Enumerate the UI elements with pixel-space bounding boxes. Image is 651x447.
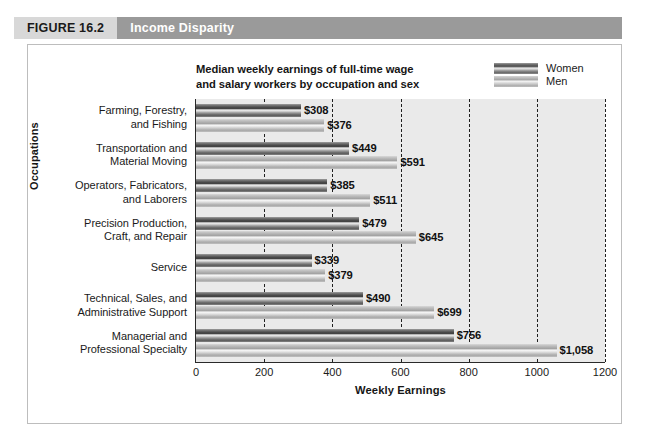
legend-label-women: Women bbox=[546, 62, 584, 75]
chart-row: Service$339$379 bbox=[196, 249, 605, 287]
bar-value-label: $490 bbox=[366, 292, 391, 305]
legend-swatch-women-icon bbox=[494, 63, 538, 74]
bar-women bbox=[196, 217, 359, 230]
gridline-1200 bbox=[605, 99, 606, 362]
category-label: Technical, Sales, andAdministrative Supp… bbox=[22, 292, 187, 319]
bar-women bbox=[196, 329, 454, 342]
x-tick-label-200: 200 bbox=[255, 366, 273, 378]
bar-men bbox=[196, 344, 557, 357]
bar-men bbox=[196, 156, 397, 169]
bar-value-label: $511 bbox=[373, 194, 397, 207]
category-label-line: Technical, Sales, and bbox=[22, 292, 187, 306]
x-tick-label-1000: 1000 bbox=[525, 366, 549, 378]
bar-value-label: $591 bbox=[400, 156, 425, 169]
bar-women bbox=[196, 142, 349, 155]
figure-header: FIGURE 16.2 Income Disparity bbox=[14, 17, 622, 39]
chart-row: Precision Production,Craft, and Repair$4… bbox=[196, 212, 605, 250]
bar-value-label: $699 bbox=[437, 306, 462, 319]
category-label-line: Craft, and Repair bbox=[22, 230, 187, 244]
legend-swatch-men-icon bbox=[494, 76, 538, 87]
chart-row: Transportation andMaterial Moving$449$59… bbox=[196, 137, 605, 175]
category-label: Precision Production,Craft, and Repair bbox=[22, 217, 187, 244]
x-axis-line bbox=[195, 362, 605, 363]
category-label-line: and Laborers bbox=[22, 193, 187, 207]
category-label-line: Service bbox=[22, 261, 187, 275]
bar-value-label: $479 bbox=[362, 217, 387, 230]
bar-value-label: $339 bbox=[315, 254, 340, 267]
chart-title: Median weekly earnings of full-time wage… bbox=[196, 62, 496, 92]
category-label-line: Precision Production, bbox=[22, 217, 187, 231]
bar-women bbox=[196, 254, 312, 267]
category-label: Farming, Forestry,and Fishing bbox=[22, 104, 187, 131]
bar-women bbox=[196, 292, 363, 305]
chart-title-line-1: Median weekly earnings of full-time wage bbox=[196, 62, 496, 77]
category-label: Transportation andMaterial Moving bbox=[22, 142, 187, 169]
chart-row: Technical, Sales, andAdministrative Supp… bbox=[196, 287, 605, 325]
figure-title: Income Disparity bbox=[117, 17, 622, 39]
legend-label-men: Men bbox=[546, 75, 567, 88]
x-tick-label-1200: 1200 bbox=[593, 366, 617, 378]
bar-value-label: $645 bbox=[419, 231, 444, 244]
bar-women bbox=[196, 179, 327, 192]
category-label-line: Managerial and bbox=[22, 330, 187, 344]
x-tick-label-800: 800 bbox=[459, 366, 477, 378]
x-tick-label-0: 0 bbox=[193, 366, 199, 378]
bar-men bbox=[196, 231, 416, 244]
category-label-line: Material Moving bbox=[22, 155, 187, 169]
category-label-line: Administrative Support bbox=[22, 306, 187, 320]
plot-area: Farming, Forestry,and Fishing$308$376Tra… bbox=[196, 99, 605, 362]
bar-value-label: $376 bbox=[327, 119, 352, 132]
bar-value-label: $449 bbox=[352, 142, 377, 155]
category-label: Operators, Fabricators,and Laborers bbox=[22, 179, 187, 206]
bar-value-label: $756 bbox=[457, 329, 482, 342]
bar-value-label: $308 bbox=[304, 104, 329, 117]
y-axis-line bbox=[195, 99, 196, 363]
chart-row: Operators, Fabricators,and Laborers$385$… bbox=[196, 174, 605, 212]
category-label-line: Professional Specialty bbox=[22, 343, 187, 357]
bar-men bbox=[196, 269, 325, 282]
category-label-line: Transportation and bbox=[22, 142, 187, 156]
category-label-line: and Fishing bbox=[22, 118, 187, 132]
category-label-line: Operators, Fabricators, bbox=[22, 179, 187, 193]
x-axis-title: Weekly Earnings bbox=[196, 384, 605, 396]
bar-value-label: $1,058 bbox=[560, 344, 594, 357]
category-label-line: Farming, Forestry, bbox=[22, 104, 187, 118]
figure-number-label: FIGURE 16.2 bbox=[14, 17, 117, 39]
chart-row: Managerial andProfessional Specialty$756… bbox=[196, 324, 605, 362]
chart-title-line-2: and salary workers by occupation and sex bbox=[196, 77, 496, 92]
chart-legend: Women Men bbox=[494, 62, 584, 88]
x-tick-label-400: 400 bbox=[323, 366, 341, 378]
chart-row: Farming, Forestry,and Fishing$308$376 bbox=[196, 99, 605, 137]
bar-value-label: $379 bbox=[328, 269, 353, 282]
category-label: Managerial andProfessional Specialty bbox=[22, 330, 187, 357]
bar-women bbox=[196, 104, 301, 117]
bar-men bbox=[196, 306, 434, 319]
legend-item-women: Women bbox=[494, 62, 584, 75]
x-tick-label-600: 600 bbox=[391, 366, 409, 378]
legend-item-men: Men bbox=[494, 75, 584, 88]
bar-value-label: $385 bbox=[330, 179, 355, 192]
bar-men bbox=[196, 194, 370, 207]
category-label: Service bbox=[22, 261, 187, 275]
bar-men bbox=[196, 119, 324, 132]
